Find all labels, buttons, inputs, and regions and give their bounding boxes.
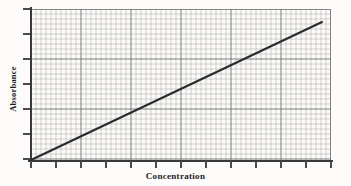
y-tick-1 [23,33,30,34]
x-tick-2 [80,161,81,168]
x-tick-6 [180,161,181,168]
plot-top-border [31,9,331,10]
y-tick-6 [23,158,30,159]
plot-right-border [330,9,331,160]
x-tick-8 [230,161,231,168]
x-tick-4 [130,161,131,168]
x-tick-9 [255,161,256,168]
x-tick-7 [205,161,206,168]
x-axis-label: Concentration [0,171,351,181]
chart-figure: Absorbance Concentration [0,0,351,186]
x-tick-10 [280,161,281,168]
x-tick-12 [330,161,331,168]
y-axis-line [30,7,32,163]
x-tick-1 [55,161,56,168]
y-axis-label: Absorbance [8,59,18,119]
y-tick-5 [23,133,30,134]
plot-area-grid [31,9,331,160]
x-tick-3 [105,161,106,168]
x-tick-5 [155,161,156,168]
x-tick-11 [305,161,306,168]
y-tick-0 [23,8,30,9]
y-tick-2 [23,58,30,59]
y-tick-4 [23,108,30,109]
x-tick-0 [30,161,31,168]
y-tick-3 [23,83,30,84]
